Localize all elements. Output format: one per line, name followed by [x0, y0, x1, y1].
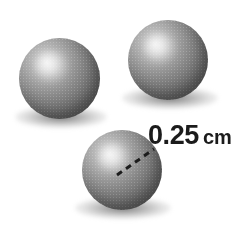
sphere-top-right: [128, 20, 208, 100]
sphere-left-body: [19, 38, 100, 119]
measurement-label: 0.25cm: [148, 122, 232, 149]
sphere-top-right-body: [128, 20, 208, 100]
sphere-left: [19, 38, 100, 119]
sphere-diagram: 0.25cm: [0, 0, 243, 230]
measurement-value: 0.25: [148, 120, 199, 150]
measurement-unit: cm: [203, 126, 232, 148]
